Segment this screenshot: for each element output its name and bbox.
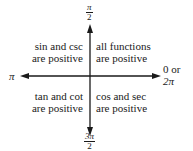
- quadrant-bottom-left-line2: are positive: [32, 102, 83, 114]
- label-pi: π: [9, 70, 15, 82]
- quadrant-bottom-right-line1: cos and sec: [96, 90, 147, 102]
- label-zero-or: 0 or: [163, 63, 180, 75]
- quadrant-top-right-line1: all functions: [96, 40, 151, 52]
- quadrant-bottom-right-line2: are positive: [96, 102, 147, 114]
- quadrant-top-left-line1: sin and csc: [32, 40, 83, 52]
- label-3pi-over-2-denominator: 2: [87, 142, 92, 151]
- quadrant-bottom-right: cos and sec are positive: [96, 90, 147, 114]
- label-pi-over-2: π 2: [86, 3, 93, 22]
- label-two-pi: 2π: [163, 75, 174, 87]
- label-pi-over-2-denominator: 2: [87, 13, 92, 22]
- arrow-left-icon: [20, 73, 29, 79]
- quadrant-top-right-line2: are positive: [96, 52, 151, 64]
- quadrant-top-right: all functions are positive: [96, 40, 151, 64]
- quadrant-top-left: sin and csc are positive: [32, 40, 83, 64]
- quadrant-bottom-left-line1: tan and cot: [32, 90, 83, 102]
- quadrant-bottom-left: tan and cot are positive: [32, 90, 83, 114]
- quadrant-top-left-line2: are positive: [32, 52, 83, 64]
- arrow-right-icon: [152, 73, 161, 79]
- label-3pi-over-2: 3π 2: [84, 132, 95, 151]
- arrow-up-icon: [87, 24, 93, 33]
